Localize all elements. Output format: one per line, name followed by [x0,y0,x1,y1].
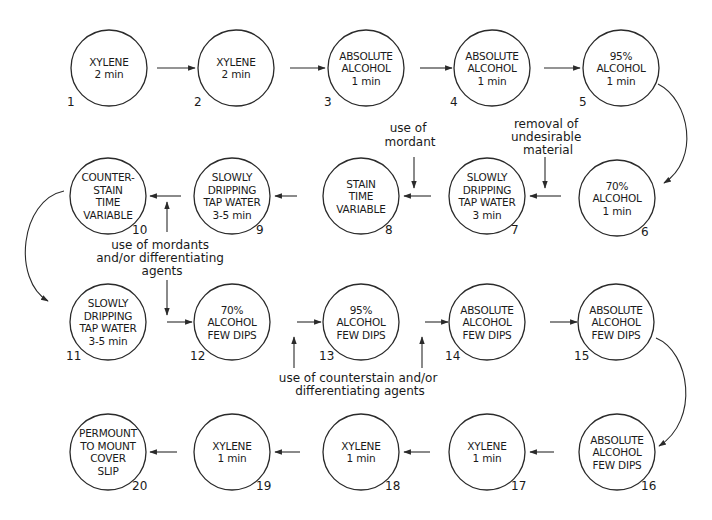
step-node-16: ABSOLUTEALCOHOLFEW DIPS16 [579,414,656,493]
step-label-line: 3-5 min [213,209,252,221]
step-node-1: XYLENE2 min1 [67,30,147,109]
step-label-line: FEW DIPS [593,459,643,471]
step-label-line: ALCOHOL [591,316,641,328]
step-label-line: DRIPPING [463,184,512,196]
step-label-line: 3-5 min [89,335,128,347]
step-label: ABSOLUTEALCOHOLFEW DIPS [460,304,514,341]
step-label-line: TO MOUNT [79,440,136,452]
step-node-9: SLOWLYDRIPPINGTAP WATER3-5 min9 [194,158,270,237]
step-label-line: ABSOLUTE [460,304,514,316]
step-node-10: COUNTER-STAINTIMEVARIABLE10 [70,158,147,237]
step-number: 11 [66,349,81,363]
step-label-line: XYLENE [216,56,255,68]
step-label-line: VARIABLE [336,203,385,215]
note-line: removal of [514,117,579,131]
step-label-line: ALCOHOL [596,62,646,74]
note-line: use of [390,121,427,135]
step-label-line: 1 min [347,452,376,464]
step-label-line: ALCOHOL [341,62,391,74]
step-label-line: TAP WATER [78,322,136,334]
step-number: 4 [450,95,458,109]
step-label-line: ABSOLUTE [590,434,644,446]
step-label-line: 2 min [95,68,124,80]
step-label-line: TAP WATER [202,196,260,208]
note-line: undesirable [511,130,581,144]
step-label-line: XYLENE [212,440,251,452]
step-label-line: ABSOLUTE [339,50,393,62]
step-node-15: ABSOLUTEALCOHOLFEW DIPS15 [574,284,654,363]
step-number: 15 [574,349,589,363]
step-number: 14 [445,349,460,363]
step-label-line: XYLENE [341,440,380,452]
step-number: 7 [511,223,519,237]
step-label-line: TAP WATER [457,196,515,208]
note-line: material [523,143,573,157]
step-label-line: FEW DIPS [337,329,387,341]
step-label-line: SLOWLY [467,171,508,183]
step-number: 17 [511,479,526,493]
step-label-line: ALCOHOL [592,446,642,458]
step-number: 1 [67,95,75,109]
step-label-line: 1 min [473,452,502,464]
step-label-line: STAIN [93,184,122,196]
step-label-line: COUNTER- [81,171,135,183]
step-label-line: 95% [350,304,373,316]
step-number: 20 [132,479,147,493]
step-number: 3 [324,95,332,109]
note-line: use of counterstain and/or [279,371,438,385]
step-label-line: FEW DIPS [463,329,513,341]
step-label-line: TIME [348,190,373,202]
step-node-5: 95%ALCOHOL1 min5 [579,30,659,109]
step-node-20: PERMOUNTTO MOUNTCOVERSLIP20 [70,414,147,493]
step-node-17: XYLENE1 min17 [449,414,526,493]
step-node-4: ABSOLUTEALCOHOL1 min4 [450,30,530,109]
step-label-line: XYLENE [467,440,506,452]
step-node-12: 70%ALCOHOLFEW DIPS12 [190,284,270,363]
step-node-7: SLOWLYDRIPPINGTAP WATER3 min7 [449,158,525,237]
step-node-14: ABSOLUTEALCOHOLFEW DIPS14 [445,284,525,363]
step-node-13: 95%ALCOHOLFEW DIPS13 [319,284,399,363]
step-number: 6 [641,225,649,239]
step-label-line: FEW DIPS [208,329,258,341]
step-number: 19 [256,479,271,493]
step-label-line: STAIN [346,178,375,190]
step-label-line: FEW DIPS [592,329,642,341]
step-number: 2 [194,95,202,109]
step-label-line: PERMOUNT [79,427,138,439]
step-label: ABSOLUTEALCOHOLFEW DIPS [590,434,644,471]
step-node-2: XYLENE2 min2 [194,30,274,109]
step-label-line: ABSOLUTE [465,50,519,62]
step-number: 16 [641,479,656,493]
step-node-19: XYLENE1 min19 [194,414,271,493]
step-label: ABSOLUTEALCOHOLFEW DIPS [589,304,643,341]
arrow-5-to-6 [658,84,687,183]
step-label-line: ALCOHOL [207,316,257,328]
step-label-line: SLOWLY [88,297,129,309]
step-label-line: DRIPPING [84,310,133,322]
step-label: XYLENE2 min [89,56,128,81]
step-label-line: COVER [90,452,126,464]
step-node-18: XYLENE1 min18 [323,414,400,493]
step-label-line: SLIP [97,465,118,477]
note-line: and/or differentiating [96,251,224,265]
step-label-line: DRIPPING [208,184,257,196]
step-label-line: SLOWLY [212,171,253,183]
note-line: mordant [384,135,435,149]
step-number: 5 [579,95,587,109]
step-node-3: ABSOLUTEALCOHOL1 min3 [324,30,404,109]
step-label-line: XYLENE [89,56,128,68]
step-number: 12 [190,349,205,363]
step-label: XYLENE2 min [216,56,255,81]
arrow-10-to-11 [25,191,64,301]
step-node-8: STAINTIMEVARIABLE8 [323,158,399,237]
step-label-line: 95% [610,50,633,62]
step-label: XYLENE1 min [467,440,506,465]
step-number: 13 [319,349,334,363]
step-label: XYLENE1 min [212,440,251,465]
note-line: differentiating agents [295,384,425,398]
step-number: 9 [256,223,264,237]
step-label-line: 1 min [478,75,507,87]
step-label-line: 1 min [603,205,632,217]
step-label-line: VARIABLE [83,209,132,221]
step-label-line: ALCOHOL [592,192,642,204]
